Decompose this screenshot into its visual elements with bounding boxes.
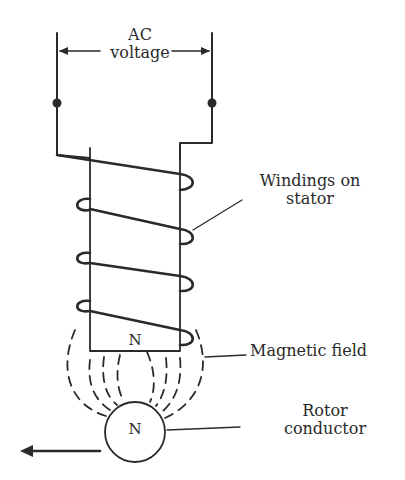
rotor-label: Rotor conductor — [265, 402, 385, 439]
stator-windings — [57, 155, 193, 345]
rotor-label-line2: conductor — [265, 420, 385, 438]
motion-arrowhead-icon — [20, 445, 33, 457]
magnetic-field-label: Magnetic field — [250, 342, 390, 360]
leader-lines — [167, 200, 246, 430]
left-terminal-dot — [53, 99, 62, 108]
stator-pole-label: N — [124, 332, 146, 349]
windings-label-line1: Windings on — [245, 172, 375, 190]
windings-label-line2: stator — [245, 190, 375, 208]
rotor-leader — [167, 427, 240, 430]
right-terminal-dot — [208, 99, 217, 108]
arrowhead-left-icon — [59, 47, 68, 55]
ac-voltage-label: AC voltage — [100, 26, 180, 63]
windings-label: Windings on stator — [245, 172, 375, 209]
ac-label-line1: AC — [100, 26, 180, 44]
magnetic-field-leader — [205, 355, 246, 357]
rotor-label-line1: Rotor — [265, 402, 385, 420]
ac-label-line2: voltage — [100, 44, 180, 62]
windings-leader — [193, 200, 242, 230]
arrowhead-right-icon — [201, 47, 210, 55]
rotor-pole-label: N — [124, 421, 146, 438]
